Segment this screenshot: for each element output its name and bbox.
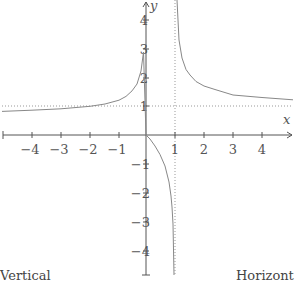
svg-text:4: 4 xyxy=(258,142,266,157)
y-axis-label: y xyxy=(149,0,158,13)
svg-text:1: 1 xyxy=(171,142,179,157)
svg-text:4: 4 xyxy=(140,13,148,28)
svg-text:−4: −4 xyxy=(20,142,39,157)
svg-text:−3: −3 xyxy=(131,215,150,230)
svg-text:−2: −2 xyxy=(131,186,150,201)
function-plot: −4 −3 −2 −1 1 2 3 4 4 3 2 1 −1 −2 −3 −4 … xyxy=(0,0,295,282)
svg-text:−1: −1 xyxy=(131,157,150,172)
svg-text:3: 3 xyxy=(229,142,237,157)
curve-right-branch xyxy=(177,0,293,100)
svg-text:−4: −4 xyxy=(131,244,150,259)
curve-left-lower xyxy=(146,135,174,275)
svg-text:−3: −3 xyxy=(49,142,68,157)
x-axis-label: x xyxy=(283,112,291,127)
caption-vertical: Vertical xyxy=(0,268,51,282)
x-tick-labels: −4 −3 −2 −1 1 2 3 4 xyxy=(20,142,266,157)
svg-text:2: 2 xyxy=(200,142,208,157)
svg-text:−1: −1 xyxy=(107,142,126,157)
svg-text:−2: −2 xyxy=(78,142,97,157)
svg-text:1: 1 xyxy=(140,99,148,114)
curve-left-branch xyxy=(2,52,146,135)
caption-horizontal: Horizont xyxy=(236,268,294,282)
